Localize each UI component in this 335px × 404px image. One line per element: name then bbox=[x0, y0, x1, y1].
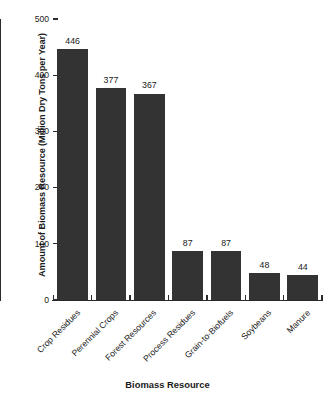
bar bbox=[287, 275, 318, 300]
x-tick-mark bbox=[321, 295, 322, 301]
x-tick-mark bbox=[206, 295, 207, 301]
y-tick-mark bbox=[53, 18, 58, 19]
bar-chart: Amount of Biomass Resource (Million Dry … bbox=[0, 0, 335, 404]
x-tick-mark bbox=[168, 295, 169, 301]
x-tick-mark bbox=[53, 295, 54, 301]
x-tick-mark bbox=[245, 295, 246, 301]
y-tick-label: 400 bbox=[9, 71, 49, 80]
bar bbox=[134, 94, 165, 300]
x-tick-mark bbox=[129, 295, 130, 301]
bar bbox=[96, 88, 127, 300]
bar bbox=[57, 49, 88, 300]
x-tick-mark bbox=[283, 295, 284, 301]
bar bbox=[249, 273, 280, 300]
bar-value-label: 44 bbox=[273, 263, 333, 272]
y-tick-label: 500 bbox=[9, 15, 49, 24]
x-tick-mark bbox=[91, 295, 92, 301]
y-axis-title: Amount of Biomass Resource (Million Dry … bbox=[37, 10, 47, 300]
y-tick-label: 200 bbox=[9, 183, 49, 192]
y-tick-label: 100 bbox=[9, 240, 49, 249]
y-tick-label: 0 bbox=[9, 296, 49, 305]
bar bbox=[211, 251, 242, 300]
bar-value-label: 87 bbox=[196, 239, 256, 248]
y-axis-line bbox=[0, 19, 1, 301]
x-axis-title: Biomass Resource bbox=[0, 379, 335, 390]
bar bbox=[172, 251, 203, 300]
bar-value-label: 367 bbox=[119, 81, 179, 90]
y-tick-label: 300 bbox=[9, 127, 49, 136]
bar-value-label: 446 bbox=[43, 37, 103, 46]
